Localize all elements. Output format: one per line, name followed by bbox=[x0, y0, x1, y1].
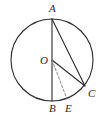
geometry-figure: A O B E C bbox=[0, 0, 106, 116]
point-label-b: B bbox=[49, 103, 56, 114]
point-label-o: O bbox=[40, 55, 48, 66]
point-label-c: C bbox=[88, 88, 95, 99]
point-label-e: E bbox=[65, 103, 72, 114]
point-label-a: A bbox=[49, 3, 56, 14]
segment-chord-ac bbox=[52, 19, 85, 86]
